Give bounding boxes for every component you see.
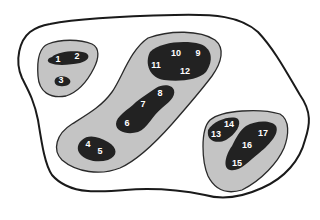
node-16: 16 <box>242 140 252 150</box>
node-14: 14 <box>224 119 234 129</box>
node-3: 3 <box>58 75 63 85</box>
node-5: 5 <box>97 146 102 156</box>
node-8: 8 <box>157 88 162 98</box>
node-6: 6 <box>124 118 129 128</box>
node-12: 12 <box>180 66 190 76</box>
node-15: 15 <box>232 158 242 168</box>
node-9: 9 <box>195 48 200 58</box>
node-17: 17 <box>258 128 268 138</box>
node-11: 11 <box>151 60 161 70</box>
node-7: 7 <box>140 99 145 109</box>
node-10: 10 <box>171 48 181 58</box>
node-13: 13 <box>211 129 221 139</box>
diagram-svg: 1 2 3 10 9 11 12 8 7 6 4 5 14 13 17 16 1… <box>0 0 320 220</box>
cluster-diagram: 1 2 3 10 9 11 12 8 7 6 4 5 14 13 17 16 1… <box>0 0 320 220</box>
node-4: 4 <box>85 139 90 149</box>
node-1: 1 <box>55 54 60 64</box>
node-2: 2 <box>74 51 79 61</box>
